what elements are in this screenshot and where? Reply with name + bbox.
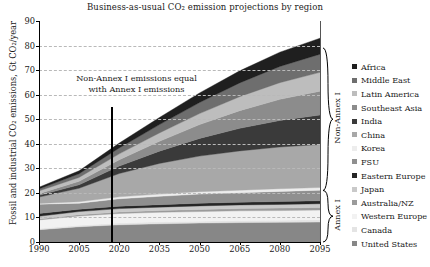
legend-label: Korea [361,143,385,153]
legend-item[interactable]: Eastern Europe [352,169,430,183]
annotation-text: Non-Annex I emissions equal with Annex I… [49,73,224,95]
y-tick-mark [36,193,39,194]
gridline [39,46,320,47]
x-tick-label: 2080 [260,244,300,254]
chart-figure: Business-as-usual CO₂ emission projectio… [0,0,430,267]
legend-label: Australia/NZ [361,198,414,208]
x-tick-mark [200,242,201,245]
legend-item[interactable]: Western Europe [352,210,430,224]
x-tick-label: 2035 [139,244,179,254]
legend-item[interactable]: FSU [352,155,430,169]
y-tick-label: 80 [1,40,35,50]
gridline [39,217,320,218]
axis-line-left [39,21,40,243]
legend-label: Southeast Asia [361,103,422,113]
x-tick-mark [119,242,120,245]
legend-swatch [352,200,357,205]
annotation-line-1: Non-Annex I emissions equal [49,73,224,84]
legend-swatch [352,241,357,246]
legend-swatch [352,214,357,219]
gridline [39,70,320,71]
legend-label: Eastern Europe [361,171,425,181]
y-tick-mark [36,144,39,145]
y-tick-label: 40 [1,138,35,148]
legend-swatch [352,146,357,151]
legend-label: Africa [361,62,386,72]
legend-label: Canada [361,225,392,235]
legend-swatch [352,132,357,137]
gridline [39,119,320,120]
legend-item[interactable]: Africa [352,60,430,74]
legend-item[interactable]: Australia/NZ [352,196,430,210]
y-tick-mark [36,21,39,22]
legend-label: China [361,130,385,140]
gridline [39,168,320,169]
x-tick-label: 2065 [220,244,260,254]
gridline [39,193,320,194]
x-tick-label: 2005 [59,244,99,254]
annotation-vertical-line [111,107,112,242]
y-tick-mark [36,119,39,120]
y-tick-label: 60 [1,89,35,99]
brace-label-annex-i: Annex I [331,200,341,231]
y-tick-mark [36,70,39,71]
x-tick-label: 1990 [19,244,59,254]
legend-item[interactable]: Canada [352,223,430,237]
legend-swatch [352,119,357,124]
legend-item[interactable]: Latin America [352,87,430,101]
y-tick-mark [36,168,39,169]
annotation-line-2: with Annex I emissions [49,84,224,95]
brace-label-non-annex-i: Non-Annex I [331,93,341,144]
legend-label: India [361,116,382,126]
legend-swatch [352,78,357,83]
x-tick-mark [159,242,160,245]
gridline [39,144,320,145]
legend-item[interactable]: Middle East [352,74,430,88]
y-tick-label: 20 [1,187,35,197]
chart-title: Business-as-usual CO₂ emission projectio… [60,2,350,12]
legend-label: Western Europe [361,211,427,221]
y-tick-label: 30 [1,163,35,173]
y-tick-mark [36,46,39,47]
legend-swatch [352,187,357,192]
x-tick-label: 2050 [180,244,220,254]
x-tick-mark [240,242,241,245]
legend-swatch [352,105,357,110]
legend-swatch [352,64,357,69]
y-tick-label: 10 [1,212,35,222]
legend-label: Middle East [361,75,410,85]
x-tick-mark [39,242,40,245]
legend-item[interactable]: China [352,128,430,142]
x-tick-mark [79,242,80,245]
legend-item[interactable]: Japan [352,182,430,196]
legend-item[interactable]: United States [352,237,430,251]
x-tick-mark [280,242,281,245]
plot-area [39,21,320,242]
x-tick-mark [320,242,321,245]
legend-swatch [352,159,357,164]
legend-swatch [352,173,357,178]
legend-swatch [352,91,357,96]
x-tick-label: 2020 [99,244,139,254]
x-tick-label: 2095 [300,244,340,254]
y-tick-label: 70 [1,65,35,75]
legend-item[interactable]: Korea [352,142,430,156]
stacked-areas [39,21,320,242]
legend-label: United States [361,239,417,249]
y-tick-mark [36,95,39,96]
y-tick-label: 90 [1,16,35,26]
axis-line-bottom [39,242,321,243]
legend-swatch [352,227,357,232]
y-tick-label: 50 [1,114,35,124]
axis-line-right [320,21,321,243]
legend-label: Latin America [361,89,419,99]
legend-label: FSU [361,157,379,167]
legend-item[interactable]: Southeast Asia [352,101,430,115]
legend-item[interactable]: India [352,114,430,128]
y-tick-mark [36,217,39,218]
legend-label: Japan [361,184,384,194]
legend: AfricaMiddle EastLatin AmericaSoutheast … [352,60,430,250]
